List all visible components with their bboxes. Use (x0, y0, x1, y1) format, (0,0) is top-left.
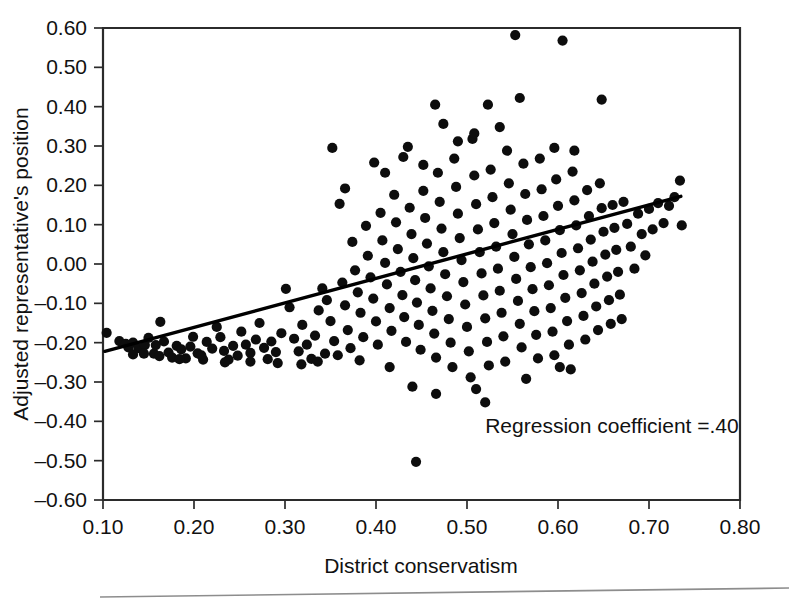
data-point (521, 374, 531, 384)
data-point (418, 186, 428, 196)
data-point (207, 343, 217, 353)
y-tick-label: 0.60 (46, 16, 87, 39)
y-axis-ticks (94, 28, 103, 500)
data-point (451, 182, 461, 192)
data-point (637, 229, 647, 239)
x-axis-ticks (103, 500, 740, 509)
y-tick-label: –0.20 (34, 331, 87, 354)
data-point (602, 271, 612, 281)
data-point (273, 358, 283, 368)
data-point (476, 268, 486, 278)
data-point (537, 184, 547, 194)
data-point (335, 199, 345, 209)
data-point (513, 296, 523, 306)
x-tick-label: 0.80 (720, 515, 761, 538)
data-point (375, 208, 385, 218)
data-point (617, 314, 627, 324)
y-axis-title: Adjusted representative's position (9, 107, 32, 420)
data-point (553, 201, 563, 211)
data-point (345, 343, 355, 353)
y-tick-label: –0.10 (34, 291, 87, 314)
data-point (626, 242, 636, 252)
data-point (369, 157, 379, 167)
data-point (517, 342, 527, 352)
data-point (462, 322, 472, 332)
data-point (549, 350, 559, 360)
data-point (438, 119, 448, 129)
data-point (254, 318, 264, 328)
x-tick-label: 0.70 (629, 515, 670, 538)
data-point (377, 235, 387, 245)
data-point (431, 353, 441, 363)
data-point (538, 211, 548, 221)
data-point (640, 250, 650, 260)
data-point (320, 349, 330, 359)
data-point (580, 334, 590, 344)
data-point (471, 199, 481, 209)
data-point (455, 233, 465, 243)
scatter-markers (102, 30, 687, 467)
data-point (353, 287, 363, 297)
data-point (433, 168, 443, 178)
data-point (408, 253, 418, 263)
scatter-plot: 0.600.500.400.300.200.100.00–0.10–0.20–0… (0, 0, 791, 606)
data-point (597, 94, 607, 104)
data-point (435, 197, 445, 207)
data-point (606, 319, 616, 329)
data-point (547, 327, 557, 337)
data-point (271, 347, 281, 357)
data-point (446, 338, 456, 348)
data-point (289, 334, 299, 344)
data-point (573, 243, 583, 253)
data-point (442, 291, 452, 301)
data-point (350, 265, 360, 275)
y-tick-label: 0.40 (46, 95, 87, 118)
data-point (266, 336, 276, 346)
data-point (276, 328, 286, 338)
data-point (511, 274, 521, 284)
data-point (313, 356, 323, 366)
data-point (391, 217, 401, 227)
data-point (469, 170, 479, 180)
data-point (447, 362, 457, 372)
data-point (604, 295, 614, 305)
data-point (415, 345, 425, 355)
data-point (526, 262, 536, 272)
data-point (393, 244, 403, 254)
data-point (407, 382, 417, 392)
x-tick-label: 0.40 (356, 515, 397, 538)
data-point (440, 269, 450, 279)
data-point (382, 279, 392, 289)
data-point (615, 290, 625, 300)
data-point (482, 337, 492, 347)
y-tick-label: –0.30 (34, 370, 87, 393)
data-point (174, 354, 184, 364)
data-point (438, 247, 448, 257)
x-axis-tick-labels: 0.100.200.300.400.500.600.700.80 (83, 515, 761, 538)
data-point (411, 457, 421, 467)
data-point (296, 359, 306, 369)
data-point (564, 340, 574, 350)
x-tick-label: 0.50 (447, 515, 488, 538)
data-point (386, 326, 396, 336)
data-point (347, 237, 357, 247)
data-point (549, 143, 559, 153)
data-point (155, 317, 165, 327)
data-point (302, 340, 312, 350)
data-point (398, 152, 408, 162)
data-point (430, 100, 440, 110)
data-point (504, 178, 514, 188)
data-point (281, 284, 291, 294)
data-point (453, 136, 463, 146)
data-point (355, 308, 365, 318)
data-point (562, 316, 572, 326)
data-point (493, 264, 503, 274)
data-point (486, 165, 496, 175)
data-point (464, 346, 474, 356)
data-point (489, 218, 499, 228)
data-point (544, 280, 554, 290)
data-point (469, 128, 479, 138)
data-point (622, 219, 632, 229)
data-point (535, 153, 545, 163)
data-point (363, 251, 373, 261)
